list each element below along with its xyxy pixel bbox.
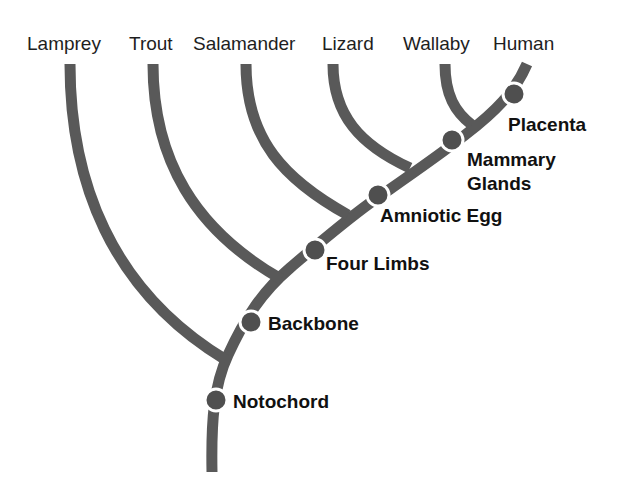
taxon-trout: Trout	[129, 33, 173, 55]
node-amniotic-egg	[367, 184, 389, 206]
cladogram: Lamprey Trout Salamander Lizard Wallaby …	[0, 0, 633, 499]
trait-mammary-glands-line2: Glands	[467, 172, 531, 196]
trait-notochord: Notochord	[233, 390, 329, 414]
trait-backbone: Backbone	[268, 312, 359, 336]
trait-placenta: Placenta	[508, 113, 586, 137]
node-mammary-glands	[441, 129, 463, 151]
node-placenta	[503, 83, 525, 105]
branch-wallaby	[445, 64, 472, 125]
trait-four-limbs: Four Limbs	[326, 252, 429, 276]
node-backbone	[240, 311, 262, 333]
node-notochord	[205, 389, 227, 411]
taxon-human: Human	[493, 33, 554, 55]
branch-lizard	[333, 64, 410, 168]
node-four-limbs	[304, 239, 326, 261]
trait-amniotic-egg: Amniotic Egg	[380, 204, 502, 228]
cladogram-tree	[0, 0, 633, 499]
taxon-wallaby: Wallaby	[403, 33, 470, 55]
taxon-lamprey: Lamprey	[27, 33, 101, 55]
taxon-lizard: Lizard	[322, 33, 374, 55]
taxon-salamander: Salamander	[193, 33, 295, 55]
branch-trout	[153, 64, 281, 279]
trait-mammary-glands-line1: Mammary	[467, 148, 556, 172]
